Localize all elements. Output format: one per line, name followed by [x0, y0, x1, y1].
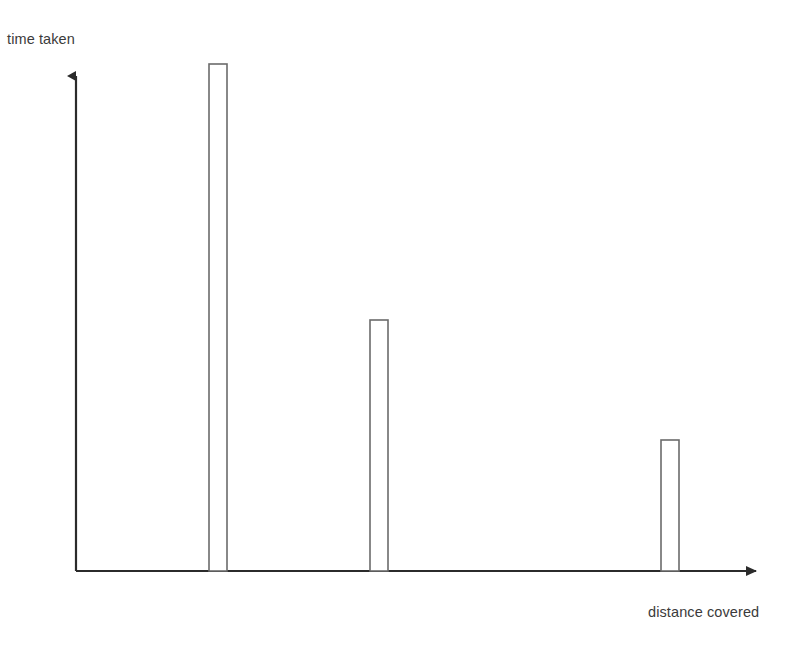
bar-2	[370, 320, 388, 571]
chart-canvas: time taken distance covered	[0, 0, 805, 652]
bar-3	[661, 440, 679, 571]
x-axis-label: distance covered	[648, 604, 759, 620]
bar-1	[209, 64, 227, 571]
bars-group	[209, 64, 679, 571]
axes-group	[76, 76, 756, 571]
bar-chart-plot	[0, 0, 805, 652]
